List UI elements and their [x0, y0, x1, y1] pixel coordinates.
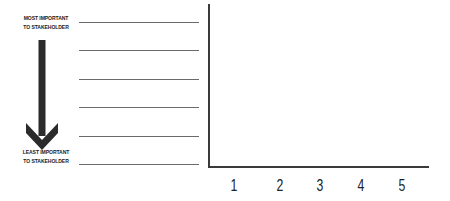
x-tick-1: 1 — [228, 176, 240, 196]
most-important-label: MOST IMPORTANT TO STAKEHOLDER — [22, 14, 70, 31]
rank-line-6 — [79, 164, 199, 165]
y-axis — [208, 4, 210, 168]
rank-line-5 — [79, 136, 199, 137]
rank-line-1 — [79, 22, 199, 23]
x-tick-3: 3 — [314, 176, 326, 196]
rank-line-4 — [79, 107, 199, 108]
x-axis — [208, 166, 429, 168]
arrow-down-icon — [25, 40, 61, 152]
rank-line-2 — [79, 50, 199, 51]
least-important-label: LEAST IMPORTANT TO STAKEHOLDER — [22, 148, 70, 165]
x-tick-5: 5 — [396, 176, 408, 196]
x-tick-4: 4 — [355, 176, 367, 196]
x-tick-2: 2 — [274, 176, 286, 196]
rank-line-3 — [79, 79, 199, 80]
